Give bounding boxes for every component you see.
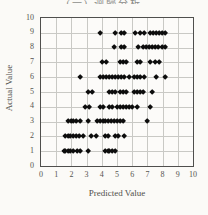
- data-point: [90, 89, 96, 95]
- y-tick-label: 6: [14, 73, 34, 81]
- y-tick-label: 1: [14, 147, 34, 155]
- y-axis-title: Actual Value: [4, 50, 14, 126]
- x-tick-label: 1: [49, 171, 63, 179]
- x-tick-label: 10: [186, 171, 200, 179]
- data-point: [137, 59, 143, 65]
- data-point: [93, 133, 99, 139]
- data-point: [153, 74, 159, 80]
- data-point: [87, 104, 93, 110]
- y-tick-label: 9: [14, 28, 34, 36]
- data-point: [163, 30, 169, 36]
- gridline-horizontal: [41, 48, 193, 49]
- x-axis-title: Predicted Value: [40, 188, 194, 198]
- y-tick-label: 4: [14, 102, 34, 110]
- data-point: [105, 133, 111, 139]
- data-point: [123, 59, 129, 65]
- data-point: [123, 89, 129, 95]
- y-tick-label: 8: [14, 43, 34, 51]
- x-tick-label: 6: [125, 171, 139, 179]
- data-point: [149, 89, 155, 95]
- plot-area: [40, 17, 194, 167]
- y-tick-label: 7: [14, 58, 34, 66]
- y-tick-label: 3: [14, 117, 34, 125]
- y-tick-label: 2: [14, 132, 34, 140]
- data-point: [120, 118, 126, 124]
- y-tick-label: 0: [14, 162, 34, 170]
- y-tick-label: 5: [14, 88, 34, 96]
- x-tick-label: 2: [64, 171, 78, 179]
- data-point: [77, 74, 83, 80]
- data-point: [77, 148, 83, 154]
- x-tick-label: 7: [140, 171, 154, 179]
- y-tick-label: 10: [14, 14, 34, 22]
- clipped-page-heading: (一) 迴歸分析: [0, 0, 208, 4]
- x-tick-label: 9: [171, 171, 185, 179]
- clipped-page-heading-text: (一) 迴歸分析: [66, 0, 141, 4]
- x-tick-label: 4: [95, 171, 109, 179]
- data-point: [121, 30, 127, 36]
- x-tick-label: 3: [80, 171, 94, 179]
- x-tick-label: 8: [156, 171, 170, 179]
- x-tick-label: 5: [110, 171, 124, 179]
- scanned-chart-page: { "page": { "clipped_heading": "(一) 迴歸分析…: [0, 0, 208, 215]
- x-tick-label: 0: [34, 171, 48, 179]
- data-point: [134, 104, 140, 110]
- data-point: [103, 59, 109, 65]
